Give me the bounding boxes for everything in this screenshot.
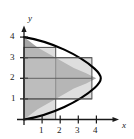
plot-canvas xyxy=(0,0,134,139)
x-tick-label-2: 2 xyxy=(57,126,62,135)
y-tick-label-3: 3 xyxy=(10,53,15,62)
x-axis-label: x xyxy=(122,121,126,130)
parabola-region-figure: 4 3 2 1 1 2 3 4 y x xyxy=(0,0,134,139)
x-tick-label-3: 3 xyxy=(75,126,80,135)
x-axis-arrow xyxy=(113,117,120,122)
x-tick-label-1: 1 xyxy=(39,126,44,135)
x-tick-label-4: 4 xyxy=(93,126,98,135)
y-tick-label-2: 2 xyxy=(10,73,15,82)
y-axis-label: y xyxy=(28,14,32,23)
y-tick-label-1: 1 xyxy=(11,94,16,103)
y-axis-arrow xyxy=(21,26,26,33)
y-tick-label-4: 4 xyxy=(10,32,15,41)
